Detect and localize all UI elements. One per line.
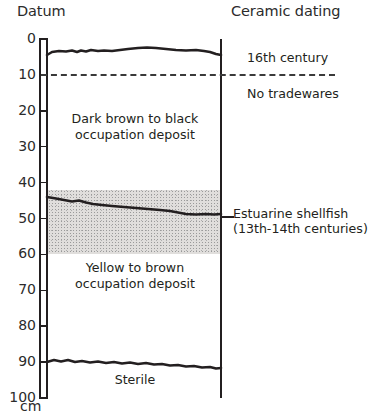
sterile-top-contour (47, 360, 221, 369)
annotation-estuarine-shellfish: Estuarine shellfish (13th-14th centuries… (233, 206, 368, 236)
stratigraphic-section (46, 39, 222, 398)
page-title-ceramic: Ceramic dating (231, 3, 340, 19)
axis-tick-label: 30 (2, 138, 36, 154)
unit-label-dark-line1: Dark brown to black (52, 111, 218, 127)
unit-label-yellow-line2: occupation deposit (52, 276, 218, 292)
annotation-16th-century: 16th century (247, 50, 328, 65)
ceramic-horizon-dashed-line (41, 74, 335, 76)
axis-tick-label: 40 (2, 174, 36, 190)
axis-tick-label: 50 (2, 210, 36, 226)
axis-tick-label: 70 (2, 281, 36, 297)
annotation-shellfish-line1: Estuarine shellfish (233, 206, 368, 221)
axis-tick-label: 10 (2, 66, 36, 82)
page-title-datum: Datum (17, 3, 66, 19)
unit-label-sterile-line1: Sterile (52, 372, 218, 388)
annotation-no-tradewares: No tradewares (247, 86, 339, 101)
ground-surface-contour (47, 48, 221, 56)
unit-label-sterile: Sterile (52, 372, 218, 388)
section-wall-right (220, 39, 222, 398)
unit-label-dark-line2: occupation deposit (52, 127, 218, 143)
annotation-shellfish-line2: (13th-14th centuries) (233, 221, 368, 236)
unit-label-yellow-line1: Yellow to brown (52, 260, 218, 276)
section-wall-left (46, 39, 48, 398)
axis-tick-label: 0 (2, 30, 36, 46)
unit-label-dark-deposit: Dark brown to black occupation deposit (52, 111, 218, 143)
unit-label-yellow-deposit: Yellow to brown occupation deposit (52, 260, 218, 292)
axis-tick-label: 80 (2, 317, 36, 333)
layer-boundary-strokes (46, 39, 222, 398)
shellfish-base-contour (47, 197, 221, 215)
axis-tick-label: 90 (2, 353, 36, 369)
axis-unit-label: cm (20, 398, 41, 414)
axis-tick-label: 60 (2, 245, 36, 261)
axis-tick-label: 20 (2, 102, 36, 118)
